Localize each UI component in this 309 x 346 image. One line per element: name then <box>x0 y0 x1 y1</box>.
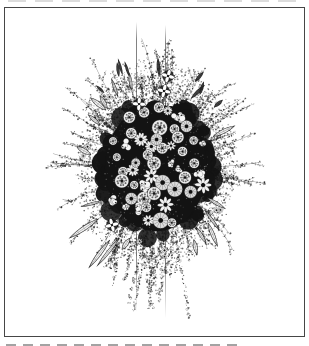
scanned-book-page <box>0 0 309 346</box>
bouquet-engraving <box>0 0 309 346</box>
